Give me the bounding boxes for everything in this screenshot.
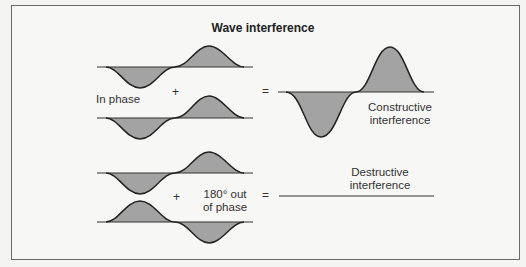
out-of-phase-plus: +	[173, 190, 180, 204]
wave-diagram	[0, 0, 526, 267]
out-of-phase-label-line1: 180° out	[190, 188, 260, 201]
in-phase-equals: =	[262, 84, 269, 98]
destructive-label-line1: Destructive	[330, 166, 430, 179]
out-of-phase-equals: =	[262, 188, 269, 202]
out-of-phase-label-line2: of phase	[190, 201, 260, 214]
constructive-label: Constructive interference	[350, 101, 450, 127]
wave-in-phase-1	[97, 46, 253, 88]
in-phase-label: In phase	[96, 93, 140, 106]
out-of-phase-label: 180° out of phase	[190, 188, 260, 214]
destructive-label: Destructive interference	[330, 166, 430, 192]
constructive-label-line2: interference	[350, 114, 450, 127]
constructive-label-line1: Constructive	[350, 101, 450, 114]
destructive-label-line2: interference	[330, 179, 430, 192]
diagram-title: Wave interference	[0, 21, 526, 35]
in-phase-plus: +	[172, 85, 179, 99]
